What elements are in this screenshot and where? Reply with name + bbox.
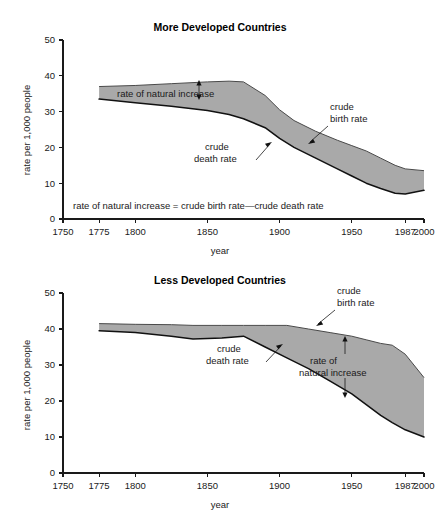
annotation-crude-death-rate-top: crude death rate — [194, 141, 272, 164]
chart-panel-less-developed: 01020304050 1750177518001850190019501987… — [0, 260, 441, 520]
x-tick-label: 1900 — [269, 480, 290, 491]
x-tick-label: 2000 — [413, 480, 434, 491]
x-tick-marks — [63, 473, 424, 477]
x-tick-label: 1850 — [197, 480, 218, 491]
y-tick-label: 30 — [44, 359, 55, 370]
y-tick-labels: 01020304050 — [44, 34, 55, 224]
annotation-natural-increase-top: rate of natural increase — [117, 80, 214, 100]
y-tick-marks — [59, 293, 63, 473]
x-tick-labels: 17501775180018501900195019872000 — [52, 480, 434, 491]
x-tick-marks — [63, 219, 424, 223]
arrow-head-icon — [316, 321, 323, 326]
arrow-head-icon — [265, 142, 272, 147]
figure-sheet: 01020304050 1750177518001850190019501987… — [0, 0, 441, 520]
annotation-crude-birth-rate-bottom: crude birth rate — [316, 285, 375, 326]
crude-death-rate-label-line2: death rate — [194, 153, 237, 164]
y-tick-label: 20 — [44, 395, 55, 406]
y-tick-label: 0 — [50, 213, 55, 224]
equation-text: rate of natural increase = crude birth r… — [73, 200, 324, 211]
crude-death-rate-label-line2: death rate — [206, 355, 249, 366]
x-axis-label-bottom: year — [211, 499, 229, 510]
x-tick-label: 1900 — [269, 226, 290, 237]
x-tick-label: 1950 — [341, 226, 362, 237]
plot-area-bottom — [99, 324, 424, 437]
x-tick-label: 1750 — [52, 226, 73, 237]
crude-birth-rate-label-line2: birth rate — [330, 113, 368, 124]
x-tick-label: 1775 — [89, 480, 110, 491]
y-tick-label: 50 — [44, 287, 55, 298]
y-tick-label: 30 — [44, 106, 55, 117]
x-tick-labels: 17501775180018501900195019872000 — [52, 226, 434, 237]
y-tick-label: 0 — [50, 467, 55, 478]
natural-increase-label-line1: rate of — [310, 355, 337, 366]
natural-increase-band — [99, 324, 424, 437]
y-tick-label: 40 — [44, 70, 55, 81]
chart-svg-less-developed: 01020304050 1750177518001850190019501987… — [0, 260, 441, 520]
chart-svg-more-developed: 01020304050 1750177518001850190019501987… — [0, 0, 441, 260]
y-axis-label-bottom: rate per 1,000 people — [21, 340, 32, 430]
y-tick-label: 20 — [44, 142, 55, 153]
x-axis-label-top: year — [211, 245, 229, 256]
crude-birth-rate-label-line2: birth rate — [337, 297, 375, 308]
chart-title-more-developed: More Developed Countries — [153, 21, 286, 33]
chart-title-less-developed: Less Developed Countries — [154, 274, 286, 286]
y-tick-label: 10 — [44, 431, 55, 442]
crude-death-rate-label-line1: crude — [217, 343, 241, 354]
natural-increase-label-line2: natural increase — [299, 367, 367, 378]
x-tick-label: 1850 — [197, 226, 218, 237]
x-tick-label: 1775 — [89, 226, 110, 237]
axes-top — [59, 40, 424, 223]
y-tick-label: 10 — [44, 178, 55, 189]
x-tick-label: 1950 — [341, 480, 362, 491]
x-tick-label: 2000 — [413, 226, 434, 237]
chart-panel-more-developed: 01020304050 1750177518001850190019501987… — [0, 0, 441, 260]
x-tick-label: 1800 — [125, 480, 146, 491]
y-tick-labels: 01020304050 — [44, 287, 55, 478]
y-axis-label-top: rate per 1,000 people — [21, 85, 32, 175]
x-tick-label: 1750 — [52, 480, 73, 491]
crude-birth-rate-label-line1: crude — [330, 101, 354, 112]
x-tick-label: 1800 — [125, 226, 146, 237]
y-tick-label: 50 — [44, 34, 55, 45]
y-tick-marks — [59, 40, 63, 219]
arrow-head-down-icon — [342, 393, 347, 398]
axis-lines — [63, 40, 424, 219]
natural-increase-label-top: rate of natural increase — [117, 88, 214, 99]
y-tick-label: 40 — [44, 323, 55, 334]
crude-death-rate-label-line1: crude — [205, 141, 229, 152]
crude-birth-rate-label-line1: crude — [337, 285, 361, 296]
